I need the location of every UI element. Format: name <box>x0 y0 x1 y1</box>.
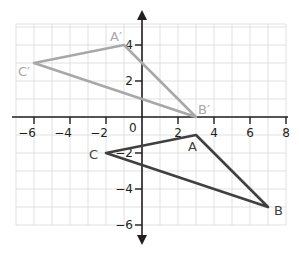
grid <box>16 24 286 225</box>
vertex-label: A′ <box>110 29 122 44</box>
x-tick-label: −6 <box>18 126 36 140</box>
y-tick-label: −4 <box>115 182 133 196</box>
y-tick-label: −6 <box>115 218 133 232</box>
vertex-label: B <box>274 203 283 218</box>
vertex-label: C <box>89 147 98 162</box>
vertex-label: A <box>188 139 197 154</box>
x-tick-label: −2 <box>90 126 108 140</box>
vertex-label: B′ <box>198 102 210 117</box>
origin-label: 0 <box>129 121 137 135</box>
coordinate-plane: −6−4−22468 42−2−4−6 A′B′C′ ABC 0 <box>0 0 299 254</box>
triangle-image-abc-prime: A′B′C′ <box>18 29 210 117</box>
x-tick-label: 6 <box>246 126 254 140</box>
x-tick-label: −4 <box>54 126 72 140</box>
vertex-label: C′ <box>18 64 30 79</box>
x-tick-label: 4 <box>210 126 218 140</box>
y-axis-up-arrow-icon <box>137 10 147 20</box>
y-tick-label: 2 <box>125 74 133 88</box>
y-axis-down-arrow-icon <box>137 235 147 245</box>
x-axis: −6−4−22468 <box>12 117 290 140</box>
x-tick-label: 8 <box>282 126 290 140</box>
